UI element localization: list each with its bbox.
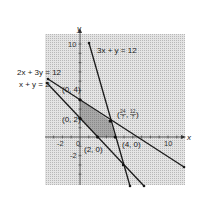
y-tick-label-neg2: -2 — [70, 151, 77, 160]
equation-label-line1: 3x + y = 12 — [97, 46, 137, 55]
equation-label-line2: 2x + 3y = 12 — [17, 68, 62, 77]
svg-text:,: , — [126, 110, 128, 119]
x-tick-label-0: 0 — [76, 139, 80, 148]
svg-text:): ) — [136, 110, 139, 119]
x-tick-label-neg2: -2 — [57, 139, 64, 148]
shaded-region — [45, 34, 185, 185]
equation-label-line3: x + y = 2 — [19, 80, 50, 89]
point-label-4-0: (4, 0) — [122, 140, 141, 149]
x-axis-label: x — [186, 133, 192, 142]
svg-text:7: 7 — [122, 114, 125, 120]
point-label-0-4: (0, 4) — [62, 85, 81, 94]
linear-inequality-graph: y x -2 0 10 10 -2 3x + y = 12 2x + 3y = … — [0, 0, 202, 203]
x-tick-label-10: 10 — [164, 139, 172, 148]
svg-text:7: 7 — [132, 114, 135, 120]
point-label-0-2: (0, 2) — [62, 115, 81, 124]
y-tick-label-10: 10 — [68, 40, 76, 49]
point-label-2-0: (2, 0) — [84, 145, 103, 154]
